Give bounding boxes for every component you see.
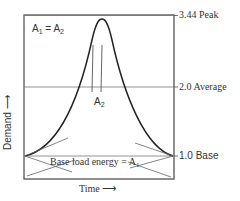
area-a2-label: A2 — [94, 97, 105, 108]
hatch-line — [101, 45, 102, 92]
arrow-up-icon: ⟶ — [2, 95, 13, 109]
hatch-line — [92, 45, 93, 92]
y-axis-label: Demand ⟶ — [2, 95, 13, 150]
base-load-energy-label: Base load energy = A1 — [50, 157, 140, 169]
base-label: 1.0 Base — [179, 151, 218, 161]
equation-label: A1 = A2 — [32, 24, 64, 35]
arrow-right-icon: ⟶ — [102, 183, 116, 194]
average-label: 2.0 Average — [179, 82, 227, 92]
x-axis-label: Time ⟶ — [79, 184, 116, 194]
demand-curve — [25, 19, 173, 156]
fan-line — [25, 138, 68, 156]
fan-line — [135, 143, 173, 156]
peak-label: 3.44 Peak — [179, 10, 218, 20]
